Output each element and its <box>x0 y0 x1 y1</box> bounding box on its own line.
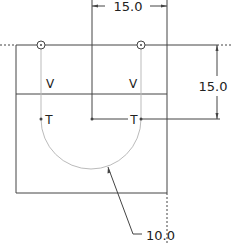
tangent-constraint-right[interactable]: T <box>129 113 138 127</box>
radius-dimension[interactable]: 10.0 <box>108 167 175 243</box>
right-dimension[interactable]: 15.0 <box>199 45 228 119</box>
arrow-left-icon <box>92 5 98 8</box>
leader-arrow-icon <box>108 167 111 174</box>
vertical-constraint-left[interactable]: V <box>46 77 55 91</box>
arrow-right-icon <box>161 5 167 8</box>
radius-dimension-value[interactable]: 10.0 <box>146 228 175 243</box>
arrow-up-icon <box>216 45 219 51</box>
vertical-constraint-right[interactable]: V <box>129 77 138 91</box>
coincident-marker-right-icon <box>137 41 145 49</box>
top-dimension-value[interactable]: 15.0 <box>114 0 143 14</box>
coincident-marker-left-icon <box>37 41 45 49</box>
right-dimension-value[interactable]: 15.0 <box>199 79 228 94</box>
left-tangent-point[interactable] <box>40 118 43 121</box>
sketch-canvas: 15.0 15.0 V V T T 10.0 <box>0 0 231 245</box>
tangent-constraint-left[interactable]: T <box>44 113 53 127</box>
arrow-down-icon <box>216 113 219 119</box>
arc[interactable] <box>41 119 141 169</box>
top-dimension[interactable]: 15.0 <box>92 0 167 14</box>
